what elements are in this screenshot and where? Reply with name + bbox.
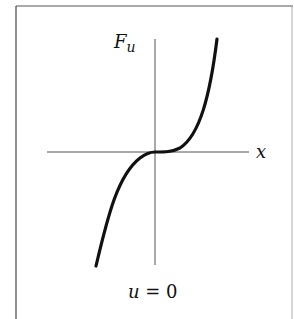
caption: u = 0 (128, 281, 178, 302)
y-axis-label: Fu (113, 31, 136, 55)
diagram: Fu x u = 0 (0, 0, 294, 319)
x-axis-label: x (256, 141, 266, 162)
